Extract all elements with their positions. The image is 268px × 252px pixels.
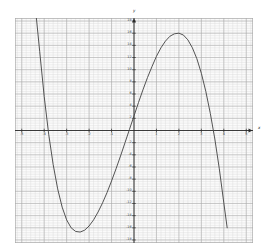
y-tick-label: -2 xyxy=(128,141,131,144)
x-tick-label: -3 xyxy=(65,133,68,136)
y-tick-label: 14 xyxy=(127,44,131,47)
graph-figure: -5-4-3-2-112345-18-16-14-12-10-8-6-4-224… xyxy=(0,0,268,252)
y-tick-label: 12 xyxy=(127,56,131,59)
y-tick-label: -16 xyxy=(126,226,132,229)
y-tick-label: 6 xyxy=(129,92,131,95)
y-axis-label: y xyxy=(133,8,135,13)
x-tick-label: -5 xyxy=(20,133,23,136)
y-tick-label: -12 xyxy=(126,202,132,205)
y-tick-label: 18 xyxy=(127,19,131,22)
y-tick-label: 16 xyxy=(127,31,131,34)
y-tick-label: 2 xyxy=(129,117,131,120)
x-tick-label: 4 xyxy=(223,133,225,136)
x-tick-label: -4 xyxy=(42,133,45,136)
y-tick-label: -8 xyxy=(128,177,131,180)
y-tick-label: -18 xyxy=(126,238,132,241)
x-tick-label: 3 xyxy=(200,133,202,136)
x-tick-label: 5 xyxy=(245,133,247,136)
x-tick-label: 2 xyxy=(178,133,180,136)
y-tick-label: 8 xyxy=(129,80,131,83)
x-tick-label: 1 xyxy=(155,133,157,136)
x-tick-label: -2 xyxy=(87,133,90,136)
y-tick-label: 10 xyxy=(127,68,131,71)
x-axis-label: x xyxy=(258,125,260,130)
y-tick-label: -6 xyxy=(128,165,131,168)
y-tick-label: -14 xyxy=(126,214,132,217)
x-tick-label: -1 xyxy=(110,133,113,136)
y-tick-label: -10 xyxy=(126,190,132,193)
y-tick-label: -4 xyxy=(128,153,131,156)
tick-labels: -5-4-3-2-112345-18-16-14-12-10-8-6-4-224… xyxy=(0,0,268,252)
y-tick-label: 4 xyxy=(129,104,131,107)
